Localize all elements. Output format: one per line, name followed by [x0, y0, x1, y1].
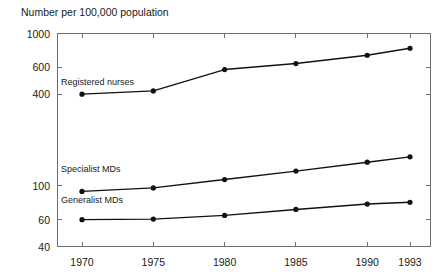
- y-tick-label: 400: [10, 88, 50, 100]
- chart-container: Number per 100,000 population 1000600400…: [0, 0, 448, 279]
- x-tick-label: 1993: [387, 256, 433, 268]
- data-point: [222, 67, 227, 72]
- chart-ticks: [58, 34, 431, 247]
- data-point: [151, 88, 156, 93]
- data-point: [151, 217, 156, 222]
- series-line-2: [82, 202, 410, 219]
- plot-frame: [58, 34, 431, 247]
- data-point: [222, 213, 227, 218]
- y-tick-label: 600: [10, 61, 50, 73]
- y-tick-label: 100: [10, 180, 50, 192]
- plot-area: [0, 0, 448, 279]
- series-label-1: Specialist MDs: [61, 164, 121, 175]
- data-point: [79, 92, 84, 97]
- data-point: [365, 53, 370, 58]
- data-point: [293, 207, 298, 212]
- data-point: [365, 160, 370, 165]
- data-point: [293, 61, 298, 66]
- data-point: [79, 217, 84, 222]
- chart-series: [79, 46, 412, 223]
- data-point: [293, 169, 298, 174]
- series-label-2: Generalist MDs: [61, 195, 123, 206]
- data-point: [151, 185, 156, 190]
- series-label-0: Registered nurses: [61, 77, 134, 88]
- data-point: [222, 177, 227, 182]
- data-point: [407, 154, 412, 159]
- data-point: [407, 200, 412, 205]
- series-line-1: [82, 157, 410, 192]
- chart-axes: [58, 34, 431, 247]
- x-tick-label: 1985: [273, 256, 319, 268]
- data-point: [407, 46, 412, 51]
- x-tick-label: 1990: [344, 256, 390, 268]
- data-point: [79, 189, 84, 194]
- data-point: [365, 201, 370, 206]
- x-tick-label: 1975: [130, 256, 176, 268]
- x-tick-label: 1970: [59, 256, 105, 268]
- y-tick-label: 40: [10, 241, 50, 253]
- x-tick-label: 1980: [202, 256, 248, 268]
- y-tick-label: 60: [10, 214, 50, 226]
- y-tick-label: 1000: [10, 28, 50, 40]
